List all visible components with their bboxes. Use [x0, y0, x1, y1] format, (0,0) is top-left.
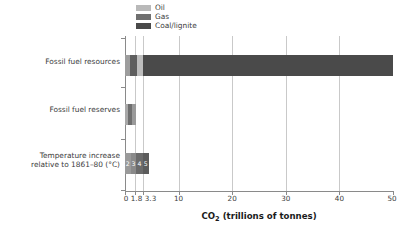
bar-fossil-fuel-resources: [125, 55, 393, 76]
plot-area: 2 3 4 5: [125, 36, 393, 191]
x-axis-tick-label-20: 20: [228, 194, 237, 203]
bar-segment-coal-lignite: [143, 55, 393, 76]
bar-segment-label-5c: 5: [143, 160, 150, 166]
y-axis-label-text-line1: Temperature increase: [10, 151, 120, 160]
x-axis-tick-label-0: 0: [124, 194, 129, 203]
y-axis-labels: Fossil fuel resources Fossil fuel reserv…: [8, 0, 120, 239]
bar-temperature-increase: 2 3 4 5: [125, 153, 149, 174]
bar-segment-coal-lignite: [132, 104, 136, 125]
legend-swatch-gas: [136, 14, 151, 20]
legend-item-oil: Oil: [136, 3, 266, 12]
y-axis-tick: [121, 139, 125, 140]
x-axis-tick-labels: 0 1.8 3.3 10 20 30 40 50: [125, 194, 393, 206]
x-axis-title-main: CO: [201, 211, 215, 221]
legend-label-gas: Gas: [155, 12, 169, 21]
bar-fossil-fuel-reserves: [125, 104, 136, 125]
x-axis-line: [125, 191, 393, 192]
bar-segment-gas: [130, 55, 137, 76]
x-axis-tick-label-50: 50: [387, 194, 396, 203]
y-axis-label-text: Fossil fuel reserves: [49, 105, 120, 114]
legend-label-oil: Oil: [155, 3, 165, 12]
y-axis-label-fossil-fuel-resources: Fossil fuel resources: [10, 57, 120, 66]
x-axis-tick-label-3.3: 3.3: [145, 194, 156, 203]
legend-item-coal-lignite: Coal/lignite: [136, 21, 266, 30]
x-axis-title: CO2 (trillions of tonnes): [125, 211, 393, 223]
y-axis-tick: [121, 38, 125, 39]
chart-legend: Oil Gas Coal/lignite: [136, 3, 266, 30]
y-axis-label-text: Fossil fuel resources: [45, 57, 120, 66]
x-axis-tick-label-10: 10: [174, 194, 183, 203]
y-axis-label-text-line2: relative to 1861–80 (°C): [10, 160, 120, 169]
y-axis-label-temperature-increase: Temperature increase relative to 1861–80…: [10, 151, 120, 169]
x-axis-tick-label-30: 30: [281, 194, 290, 203]
y-axis-tick: [121, 87, 125, 88]
legend-item-gas: Gas: [136, 12, 266, 21]
chart-figure: Oil Gas Coal/lignite Fossil fuel resourc…: [0, 0, 417, 239]
legend-label-coal-lignite: Coal/lignite: [155, 21, 197, 30]
x-axis-title-rest: (trillions of tonnes): [220, 211, 317, 221]
legend-swatch-oil: [136, 5, 151, 11]
x-axis-tick-label-40: 40: [335, 194, 344, 203]
x-axis-tick-label-1.8: 1.8: [131, 194, 142, 203]
y-axis-label-fossil-fuel-reserves: Fossil fuel reserves: [10, 105, 120, 114]
legend-swatch-coal-lignite: [136, 23, 151, 29]
bar-segment-temp-5c: 5: [143, 153, 150, 174]
